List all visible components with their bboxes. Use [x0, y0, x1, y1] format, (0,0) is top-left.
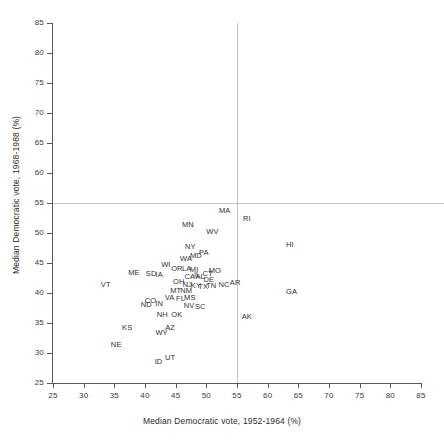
y-tick-label: 25	[18, 378, 44, 387]
y-tick-label: 80	[18, 48, 44, 57]
data-point-label: IA	[155, 271, 162, 279]
x-tick-mark	[237, 383, 238, 388]
x-tick-label: 60	[253, 391, 283, 400]
y-tick-mark	[47, 203, 52, 204]
data-point-label: UT	[165, 354, 175, 362]
x-tick-label: 35	[99, 391, 129, 400]
x-tick-label: 55	[222, 391, 252, 400]
data-point-label: MN	[182, 221, 194, 229]
data-point-label: WI	[161, 261, 170, 269]
y-tick-label: 50	[18, 228, 44, 237]
data-point-label: NE	[111, 341, 122, 349]
x-tick-label: 40	[130, 391, 160, 400]
x-tick-mark	[268, 383, 269, 388]
data-point-label: HI	[286, 241, 294, 249]
y-tick-label: 30	[18, 348, 44, 357]
y-tick-label: 70	[18, 108, 44, 117]
x-tick-mark	[176, 383, 177, 388]
data-point-label: GA	[286, 288, 297, 296]
y-axis-title: Median Democratic vote, 1968-1988 (%)	[11, 95, 21, 295]
y-tick-label: 55	[18, 198, 44, 207]
data-point-label: ME	[128, 269, 139, 277]
scatter-plot-figure: 25303540455055606570758085 2530354045505…	[0, 0, 444, 440]
data-point-label: NH	[157, 311, 168, 319]
x-tick-label: 45	[161, 391, 191, 400]
data-point-label: ND	[141, 301, 152, 309]
y-tick-label: 65	[18, 138, 44, 147]
data-point-label: WY	[155, 329, 167, 337]
data-point-label: VT	[101, 281, 111, 289]
x-tick-label: 30	[69, 391, 99, 400]
x-tick-mark	[84, 383, 85, 388]
x-tick-label: 70	[314, 391, 344, 400]
data-point-label: NV	[184, 302, 195, 310]
x-tick-mark	[145, 383, 146, 388]
x-tick-label: 50	[191, 391, 221, 400]
y-tick-mark	[47, 23, 52, 24]
data-point-label: KS	[122, 324, 132, 332]
data-point-label: ID	[155, 358, 163, 366]
x-tick-label: 80	[375, 391, 405, 400]
data-point-label: VA	[165, 294, 175, 302]
x-axis-title: Median Democratic vote, 1952-1964 (%)	[0, 416, 444, 426]
y-tick-mark	[47, 53, 52, 54]
plot-area: MARIMNWVHINYPAMDWAWIORLAMIMOMESDIAILCTCA…	[53, 23, 421, 383]
y-tick-mark	[47, 293, 52, 294]
y-tick-mark	[47, 383, 52, 384]
data-point-label: TN	[206, 282, 216, 290]
data-point-label: MA	[219, 207, 230, 215]
y-tick-label: 85	[18, 18, 44, 27]
y-tick-mark	[47, 353, 52, 354]
x-tick-mark	[421, 383, 422, 388]
data-point-label: OR	[171, 265, 182, 273]
x-tick-mark	[114, 383, 115, 388]
x-tick-label: 75	[345, 391, 375, 400]
y-tick-mark	[47, 83, 52, 84]
x-tick-label: 25	[38, 391, 68, 400]
data-point-label: AR	[230, 279, 241, 287]
data-point-label: OK	[171, 311, 182, 319]
data-point-label: RI	[243, 215, 251, 223]
data-point-label: WA	[180, 255, 192, 263]
x-tick-mark	[329, 383, 330, 388]
x-tick-mark	[360, 383, 361, 388]
y-tick-label: 35	[18, 318, 44, 327]
x-tick-mark	[53, 383, 54, 388]
y-tick-mark	[47, 233, 52, 234]
x-tick-mark	[206, 383, 207, 388]
y-tick-label: 45	[18, 258, 44, 267]
y-tick-mark	[47, 143, 52, 144]
x-tick-label: 65	[283, 391, 313, 400]
y-tick-label: 75	[18, 78, 44, 87]
data-point-label: NC	[219, 281, 230, 289]
data-point-label: IN	[155, 300, 163, 308]
y-tick-mark	[47, 173, 52, 174]
y-tick-mark	[47, 323, 52, 324]
data-point-label: AK	[242, 313, 252, 321]
y-tick-label: 40	[18, 288, 44, 297]
data-point-label: WV	[206, 228, 218, 236]
x-tick-mark	[298, 383, 299, 388]
x-tick-mark	[390, 383, 391, 388]
data-point-label: SC	[195, 303, 206, 311]
y-tick-mark	[47, 113, 52, 114]
y-tick-label: 60	[18, 168, 44, 177]
y-tick-mark	[47, 263, 52, 264]
x-tick-label: 85	[406, 391, 436, 400]
